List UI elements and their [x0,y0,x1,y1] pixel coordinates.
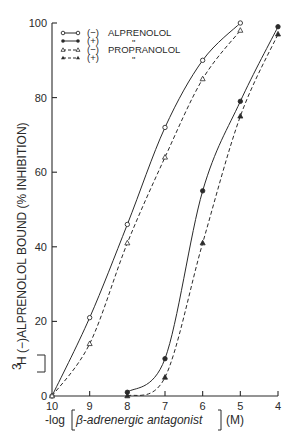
open-triangle-marker [163,154,168,159]
x-axis-title: -log β-adrenergic antagonist (M) [45,410,244,430]
filled-circle-marker [200,189,204,193]
filled-circle-marker [163,357,167,361]
legend-drug: PROPRANOLOL [108,44,180,55]
series-curve [52,23,240,396]
y-title-bracket-icon [37,355,45,372]
filled-triangle-marker [276,31,281,36]
x-tick-label: 9 [87,400,93,412]
legend: (−) ALPRENOLOL (+) " (−) PROPRANOLOL (+)… [61,27,180,65]
x-tick-label: 8 [124,400,130,412]
x-tick-label: 7 [162,400,168,412]
legend-item-minus-propranolol: (−) PROPRANOLOL [61,44,180,55]
x-axis-title-inner: β-adrenergic antagonist [75,413,203,427]
open-triangle-icon [61,48,65,52]
y-tick-label: 60 [35,166,47,178]
data-markers [50,21,281,398]
series-curve [127,34,278,396]
series-curve [127,27,278,393]
open-circle-icon [61,31,65,35]
filled-triangle-icon [76,56,80,60]
x-axis-title-prefix: -log [45,413,65,427]
y-tick-label: 80 [35,92,47,104]
dose-response-chart: 020406080100 10987654 (−) ALPRENOLOL (+)… [0,0,295,445]
y-tick-label: 100 [29,17,47,29]
legend-sign: (+) [87,52,99,63]
left-bracket-icon [72,410,75,430]
open-circle-marker [125,222,129,226]
right-bracket-icon [218,410,221,430]
legend-drug-ditto: " [132,54,135,65]
y-title-element: H [15,356,29,365]
data-curves [52,23,278,396]
legend-drug: ALPRENOLOL [108,27,171,38]
filled-triangle-marker [238,113,243,118]
filled-circle-icon [61,39,65,43]
open-circle-marker [200,58,204,62]
x-tick-label: 6 [200,400,206,412]
open-circle-marker [238,21,242,25]
filled-circle-marker [276,25,280,29]
legend-item-minus-alprenolol: (−) ALPRENOLOL [61,27,171,38]
axes [52,23,278,396]
x-tick-label: 5 [237,400,243,412]
open-triangle-marker [125,240,130,245]
x-tick-labels: 10987654 [46,400,281,412]
y-tick-label: 20 [35,315,47,327]
series-curve [52,30,240,396]
y-title-rest: (−)ALPRENOLOL BOUND (% INHIBITION) [15,122,29,353]
y-tick-label: 40 [35,241,47,253]
x-tick-label: 10 [46,400,58,412]
open-circle-marker [163,125,167,129]
filled-circle-icon [76,39,80,43]
open-triangle-marker [200,76,205,81]
x-tick-label: 4 [275,400,281,412]
y-tick-labels: 020406080100 [29,17,47,402]
open-circle-icon [76,31,80,35]
x-axis-title-unit: (M) [226,413,244,427]
filled-circle-marker [238,99,242,103]
filled-triangle-marker [200,240,205,245]
open-triangle-marker [238,28,243,33]
open-triangle-marker [87,341,92,346]
open-circle-marker [87,315,91,319]
filled-triangle-marker [163,375,168,380]
open-triangle-icon [76,48,80,52]
